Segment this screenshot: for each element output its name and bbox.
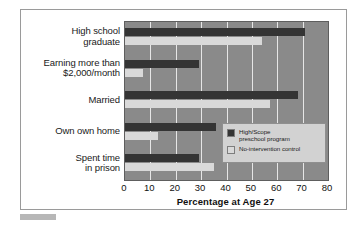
category-label: Spent timein prison [24,153,120,174]
chart-legend: High/Scope preschool programNo-intervent… [222,123,326,163]
bar [125,100,270,108]
bar [125,163,214,171]
bar [125,60,199,68]
category-label-line: Own own home [24,126,120,137]
bar [125,69,143,77]
gridline [328,22,329,180]
bar [125,37,262,45]
x-tick-label: 30 [195,182,206,193]
bar-group [125,85,328,117]
x-tick-label: 20 [169,182,180,193]
x-tick-label: 10 [144,182,155,193]
legend-label: High/Scope preschool program [239,128,290,142]
legend-item: No-intervention control [227,145,322,154]
corner-tab [20,214,56,220]
bar [125,123,216,131]
legend-item: High/Scope preschool program [227,128,322,142]
legend-swatch [227,146,235,154]
category-label-line: Married [24,95,120,106]
category-label: Own own home [24,126,120,137]
bar [125,154,199,162]
bar-group [125,22,328,54]
x-tick-label: 70 [296,182,307,193]
legend-label: No-intervention control [239,145,300,152]
category-label-line: $2,000/month [24,68,120,79]
x-tick-label: 0 [121,182,126,193]
category-label: Earning more than$2,000/month [24,58,120,79]
x-tick-label: 50 [246,182,257,193]
bar [125,132,158,140]
category-axis-labels: High schoolgraduateEarning more than$2,0… [24,21,120,179]
legend-swatch [227,129,235,137]
bar [125,91,298,99]
x-tick-label: 40 [220,182,231,193]
x-tick-label: 80 [322,182,333,193]
bar [125,28,305,36]
chart-figure: High schoolgraduateEarning more than$2,0… [0,0,362,228]
category-label: High schoolgraduate [24,26,120,47]
category-label: Married [24,95,120,106]
category-label-line: in prison [24,163,120,174]
category-label-line: graduate [24,37,120,48]
x-axis-tick-labels: 01020304050607080 [124,182,327,195]
bar-group [125,54,328,86]
x-tick-label: 60 [271,182,282,193]
x-axis-title: Percentage at Age 27 [124,196,327,207]
